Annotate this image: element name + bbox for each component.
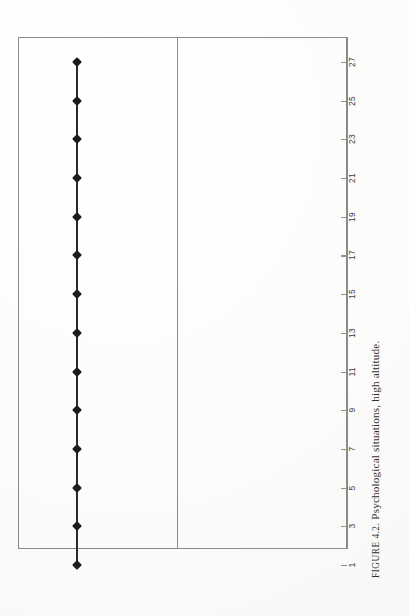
caption-text: Psychological situations, high altitude. bbox=[369, 341, 381, 520]
axis-tick-label: 27 bbox=[347, 57, 357, 67]
axis-tick-label: 19 bbox=[347, 212, 357, 222]
figure-caption: FIGURE 4.2. Psychological situations, hi… bbox=[369, 341, 381, 578]
axis-tick-label: 11 bbox=[347, 367, 357, 376]
axis-tick-label: 13 bbox=[347, 328, 357, 338]
panel-divider bbox=[177, 38, 178, 548]
axis-tick-label: 7 bbox=[347, 446, 357, 451]
axis-tick-label: 9 bbox=[347, 408, 357, 413]
axis-tick-label: 1 bbox=[347, 563, 357, 568]
axis-tick-label: 15 bbox=[347, 289, 357, 299]
caption-lead: FIGURE 4.2. bbox=[371, 523, 381, 578]
chart-frame bbox=[18, 37, 347, 549]
axis-tick-label: 23 bbox=[347, 134, 357, 144]
data-point-marker bbox=[72, 560, 82, 570]
axis-tick-label: 5 bbox=[347, 485, 357, 490]
axis-tick-label: 25 bbox=[347, 96, 357, 106]
axis-tick-label: 3 bbox=[347, 524, 357, 529]
scanned-page: 27252321191715131197531 FIGURE 4.2. Psyc… bbox=[0, 0, 409, 616]
axis-tick-label: 21 bbox=[347, 173, 357, 183]
axis-tick-label: 17 bbox=[347, 251, 357, 261]
figure-container: 27252321191715131197531 FIGURE 4.2. Psyc… bbox=[0, 0, 409, 616]
